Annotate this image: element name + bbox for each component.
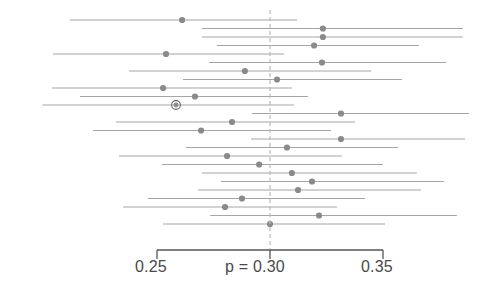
x-axis-tick-label-center: p = 0.30: [225, 258, 285, 276]
estimate-marker: [320, 34, 326, 40]
estimate-marker: [338, 136, 344, 142]
x-axis-tick-label-right: 0.35: [361, 258, 393, 276]
estimate-marker: [224, 153, 230, 159]
estimate-marker: [295, 187, 301, 193]
estimate-marker: [289, 170, 295, 176]
estimate-marker: [320, 25, 326, 31]
estimate-marker: [338, 110, 344, 116]
estimate-marker: [179, 17, 185, 23]
highlighted-estimate-marker: [174, 103, 179, 108]
estimate-marker: [284, 144, 290, 150]
estimate-marker: [274, 76, 280, 82]
estimate-marker: [192, 93, 198, 99]
estimate-marker: [229, 119, 235, 125]
forest-plot-canvas: [0, 0, 485, 295]
forest-plot-figure: 0.25 p = 0.30 0.35: [0, 0, 485, 295]
estimate-marker: [316, 212, 322, 218]
estimate-marker: [309, 178, 315, 184]
estimate-marker: [319, 59, 325, 65]
estimate-marker: [160, 85, 166, 91]
confidence-interval-rows: [42, 17, 468, 227]
estimate-marker: [311, 42, 317, 48]
estimate-marker: [242, 68, 248, 74]
estimate-marker: [256, 161, 262, 167]
estimate-marker: [163, 51, 169, 57]
estimate-marker: [222, 204, 228, 210]
x-axis-tick-label-left: 0.25: [135, 258, 167, 276]
estimate-marker: [239, 195, 245, 201]
estimate-marker: [198, 127, 204, 133]
